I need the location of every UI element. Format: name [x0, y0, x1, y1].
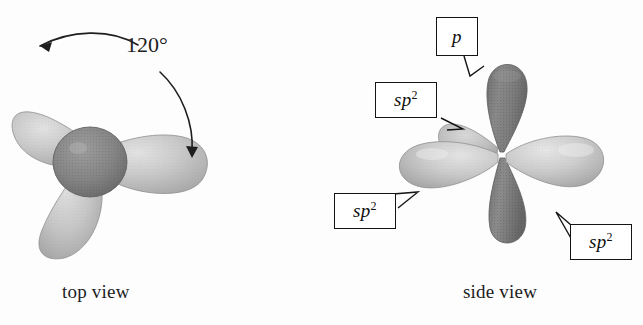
sp2-callout-right-box[interactable]: sp2: [570, 224, 632, 260]
top-view-caption: top view: [62, 281, 130, 303]
sp2-callout-back-box[interactable]: sp2: [375, 82, 437, 118]
p-orbital-top-lobe: [487, 64, 527, 152]
p-callout-label: p: [452, 26, 462, 48]
sp2-right-label: sp: [589, 231, 607, 253]
sp2-lobe-right: [506, 136, 604, 187]
sp2-callout-left-box[interactable]: sp2: [334, 193, 396, 229]
angle-label-120: 120°: [126, 32, 168, 58]
figure-canvas: 120° top view: [0, 0, 643, 325]
sp2-lobe-left: [399, 142, 498, 188]
top-view-panel: 120° top view: [0, 0, 300, 325]
side-view-caption: side view: [463, 281, 537, 303]
side-view-panel: side view: [320, 0, 643, 325]
top-view-orbitals: [0, 40, 240, 260]
sp2-back-label: sp: [394, 89, 412, 111]
sp2-left-label: sp: [353, 200, 371, 222]
p-callout-box[interactable]: p: [436, 17, 478, 56]
top-view-core-sphere: [53, 127, 127, 197]
